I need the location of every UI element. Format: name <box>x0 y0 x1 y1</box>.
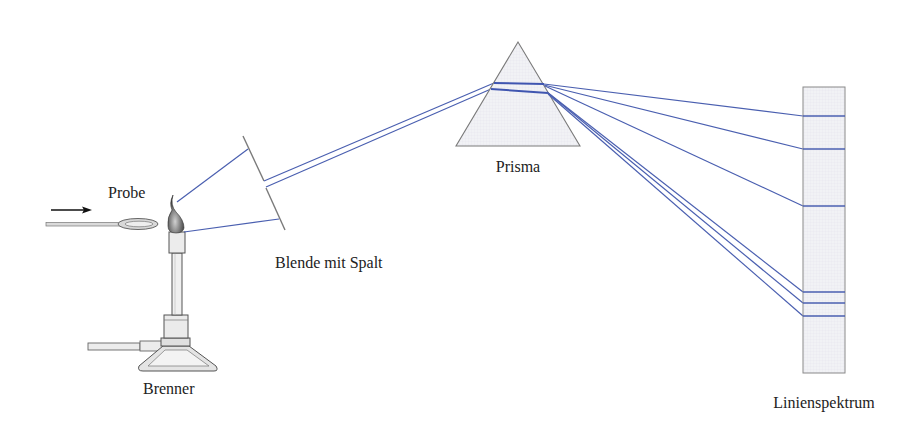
light-rays-source <box>177 149 279 232</box>
label-brenner: Brenner <box>143 380 195 397</box>
flame-icon <box>168 195 184 233</box>
label-blende: Blende mit Spalt <box>275 254 383 272</box>
dispersed-rays <box>544 84 803 316</box>
spectrum-screen <box>803 87 845 373</box>
arrow-icon <box>51 207 92 214</box>
slit-aperture <box>243 136 285 230</box>
light-beam <box>264 83 494 187</box>
diagram-canvas: Probe Brenner Blende mit Spalt Prisma Li… <box>0 0 913 429</box>
line-spectrum-diagram: Probe Brenner Blende mit Spalt Prisma Li… <box>0 0 913 429</box>
label-prisma: Prisma <box>496 158 540 175</box>
label-probe: Probe <box>108 184 145 201</box>
sample-loop <box>46 219 158 230</box>
label-spektrum: Linienspektrum <box>773 394 875 412</box>
